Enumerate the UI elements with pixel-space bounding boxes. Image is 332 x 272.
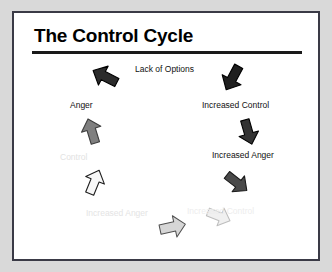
arrow-anger	[74, 111, 110, 153]
stage-label-lack-of-options: Lack of Options	[135, 65, 194, 74]
stage-label-control: Control	[60, 153, 87, 162]
arrow-top-right-return	[213, 58, 253, 96]
page-title: The Control Cycle	[34, 25, 193, 47]
stage-label-increased-control-faded: Increased Control	[187, 207, 254, 216]
arrow-increased-control	[230, 111, 266, 151]
stage-label-anger: Anger	[70, 101, 93, 110]
stage-label-increased-anger-faded: Increased Anger	[86, 209, 148, 218]
slide-canvas: The Control Cycle	[14, 13, 318, 259]
title-underline-rule	[32, 51, 302, 54]
stage-label-increased-anger: Increased Anger	[212, 151, 274, 160]
slide-screenshot: The Control Cycle	[0, 0, 332, 272]
arrow-increased-anger	[218, 161, 254, 203]
stage-label-increased-control: Increased Control	[202, 101, 269, 110]
arrow-control	[76, 161, 112, 205]
arrow-lack-of-options	[86, 58, 126, 96]
arrow-increased-control-faded	[200, 199, 236, 233]
slide-frame: The Control Cycle	[12, 11, 320, 261]
